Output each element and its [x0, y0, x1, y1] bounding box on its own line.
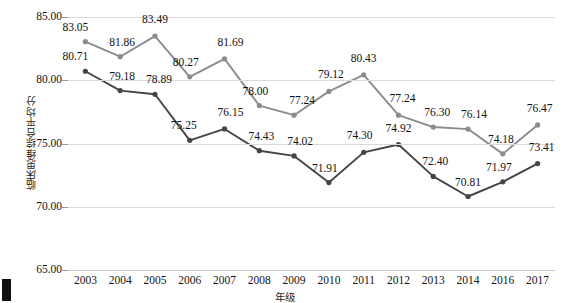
data-point-marker — [118, 54, 123, 59]
data-point-marker — [292, 113, 297, 118]
data-point-label: 79.18 — [109, 70, 135, 82]
data-point-label: 72.40 — [422, 156, 448, 168]
data-point-marker — [257, 103, 262, 108]
line-chart: 85.0080.0075.0070.0065.00 临床思维综合平均分 2003… — [0, 0, 570, 303]
data-point-marker — [500, 179, 505, 184]
y-tick-mark — [62, 207, 68, 208]
data-point-label: 70.81 — [455, 176, 481, 188]
data-point-marker — [535, 122, 540, 127]
data-point-label: 83.49 — [142, 14, 168, 26]
data-point-marker — [83, 69, 88, 74]
data-point-marker — [152, 34, 157, 39]
data-point-marker — [431, 174, 436, 179]
data-point-label: 80.71 — [62, 51, 88, 63]
data-point-label: 76.14 — [461, 109, 487, 121]
data-point-label: 73.41 — [529, 141, 555, 153]
data-point-label: 74.18 — [488, 133, 514, 145]
data-point-label: 76.47 — [527, 102, 553, 114]
data-point-marker — [361, 72, 366, 77]
data-point-label: 74.43 — [248, 130, 274, 142]
data-point-marker — [118, 88, 123, 93]
data-point-label: 78.00 — [242, 85, 268, 97]
data-point-label: 77.24 — [390, 93, 416, 105]
data-point-label: 78.89 — [146, 74, 172, 86]
gridline-70 — [68, 207, 555, 208]
gridline-65 — [68, 270, 555, 271]
data-point-label: 76.15 — [218, 106, 244, 118]
data-point-marker — [465, 126, 470, 131]
data-point-label: 71.91 — [312, 162, 338, 174]
data-point-marker — [222, 56, 227, 61]
y-tick-mark — [62, 80, 68, 81]
data-point-label: 76.30 — [424, 107, 450, 119]
data-point-label: 80.27 — [173, 56, 199, 68]
data-point-label: 81.86 — [109, 36, 135, 48]
data-point-label: 83.05 — [62, 21, 88, 33]
data-point-label: 71.97 — [486, 161, 512, 173]
data-point-label: 74.30 — [347, 130, 373, 142]
gridline-80 — [68, 80, 555, 81]
data-point-marker — [500, 151, 505, 156]
data-point-marker — [152, 92, 157, 97]
data-point-marker — [431, 124, 436, 129]
data-point-label: 75.25 — [171, 120, 197, 132]
y-tick-mark — [62, 144, 68, 145]
data-point-marker — [326, 180, 331, 185]
data-point-marker — [187, 138, 192, 143]
data-point-label: 79.12 — [318, 69, 344, 81]
x-axis-title: 年级 — [0, 289, 570, 303]
data-point-marker — [292, 153, 297, 158]
y-tick-mark — [62, 17, 68, 18]
x-tick-label: 2017 — [516, 274, 560, 286]
data-point-label: 74.02 — [287, 135, 313, 147]
data-point-marker — [396, 113, 401, 118]
data-point-label: 74.92 — [386, 122, 412, 134]
data-point-marker — [187, 74, 192, 79]
y-tick-label: 85.00 — [18, 11, 62, 23]
data-point-label: 81.69 — [218, 36, 244, 48]
data-point-marker — [535, 161, 540, 166]
data-point-marker — [361, 150, 366, 155]
data-point-label: 80.43 — [351, 52, 377, 64]
data-point-label: 77.24 — [289, 95, 315, 107]
y-tick-mark — [62, 270, 68, 271]
data-point-marker — [257, 148, 262, 153]
data-point-marker — [465, 194, 470, 199]
data-point-marker — [222, 126, 227, 131]
data-point-marker — [83, 39, 88, 44]
y-tick-label: 65.00 — [18, 264, 62, 276]
y-axis-title: 临床思维综合平均分 — [24, 78, 40, 208]
data-point-marker — [326, 89, 331, 94]
